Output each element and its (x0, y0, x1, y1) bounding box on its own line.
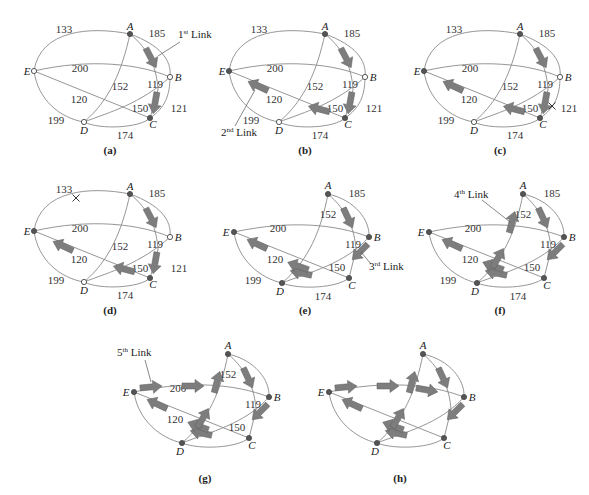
panel-h: ABCDE(h) (317, 339, 476, 485)
node-label-b: B (469, 391, 476, 403)
edge-weight-120: 120 (71, 93, 88, 105)
edge-weight-121: 121 (561, 102, 578, 114)
node-label-e: E (23, 225, 31, 237)
link-arrow-icon (247, 237, 268, 251)
edge-weight-119: 119 (537, 78, 554, 90)
edge-AC-119 (423, 354, 451, 438)
edge-EB-200 (34, 64, 170, 77)
edge-weight-200: 200 (267, 62, 284, 74)
panel-caption-b: (b) (298, 144, 312, 157)
link-arrow-icon (436, 367, 450, 388)
edge-DC-174 (84, 118, 150, 127)
node-label-a: A (419, 339, 427, 351)
node-label-d: D (79, 124, 88, 136)
node-b (167, 234, 172, 239)
edge-weight-119: 119 (345, 238, 362, 250)
edge-ED-199 (329, 392, 377, 443)
node-label-c: C (149, 278, 157, 290)
edge-weight-120: 120 (267, 253, 284, 265)
node-e (421, 68, 426, 73)
edge-weight-121: 121 (171, 262, 188, 274)
edge-weight-120: 120 (266, 93, 283, 105)
edge-weight-200: 200 (462, 62, 479, 74)
link-arrow-icon (335, 380, 357, 393)
edge-weight-185: 185 (539, 27, 556, 39)
node-label-e: E (218, 65, 226, 77)
edge-weight-199: 199 (48, 274, 65, 286)
edge-EB-200 (429, 225, 564, 237)
link-arrow-icon (143, 207, 158, 228)
node-label-e: E (222, 226, 230, 238)
edge-weight-174: 174 (510, 290, 527, 302)
node-label-c: C (543, 279, 551, 291)
node-label-d: D (79, 284, 88, 296)
edge-weight-119: 119 (342, 78, 359, 90)
edge-weight-120: 120 (461, 93, 478, 105)
node-e (131, 389, 136, 394)
edge-EB-200 (34, 224, 170, 237)
edge-weight-185: 185 (344, 27, 361, 39)
edge-weight-152: 152 (112, 80, 129, 92)
panel-caption-h: (h) (393, 472, 407, 485)
node-label-d: D (275, 285, 284, 297)
edge-weight-152: 152 (307, 80, 324, 92)
link-arrow-icon (533, 47, 548, 68)
link-arrow-icon (342, 397, 363, 411)
node-label-e: E (23, 65, 31, 77)
node-e (226, 68, 231, 73)
edge-weight-120: 120 (71, 253, 88, 265)
edge-weight-152: 152 (112, 240, 129, 252)
node-label-b: B (175, 231, 182, 243)
node-label-c: C (443, 439, 451, 451)
edge-weight-119: 119 (147, 238, 164, 250)
node-b (461, 394, 466, 399)
node-label-b: B (274, 391, 281, 403)
node-e (426, 229, 431, 234)
node-label-b: B (565, 71, 572, 83)
panel-a: 133185200152119120150121199174ABCDE(a)1s… (23, 20, 213, 157)
panel-caption-e: (e) (299, 304, 312, 317)
node-label-d: D (370, 445, 379, 457)
edge-weight-174: 174 (315, 290, 332, 302)
edge-weight-174: 174 (117, 289, 134, 301)
edge-weight-119: 119 (147, 78, 164, 90)
node-label-c: C (344, 118, 352, 130)
node-label-e: E (417, 226, 425, 238)
node-b (362, 74, 367, 79)
link-arrow-icon (536, 207, 550, 228)
edge-EB-200 (424, 64, 560, 77)
node-label-a: A (516, 20, 524, 32)
node-a (420, 351, 425, 356)
link-callout-label: 4th Link (454, 188, 489, 200)
link-callout-label: 2nd Link (221, 126, 258, 138)
edge-weight-150: 150 (132, 102, 149, 114)
node-a (127, 191, 132, 196)
node-label-b: B (569, 231, 576, 243)
node-label-a: A (224, 339, 232, 351)
link-arrow-icon (338, 47, 353, 68)
edge-weight-185: 185 (349, 187, 366, 199)
panel-caption-f: (f) (495, 304, 506, 317)
node-label-c: C (248, 439, 256, 451)
panel-caption-d: (d) (103, 304, 117, 317)
callout-leader-line (158, 42, 180, 56)
link-callout-label: 3rd Link (369, 260, 404, 272)
link-arrow-icon (148, 252, 161, 274)
edge-weight-121: 121 (171, 102, 188, 114)
edge-weight-133: 133 (446, 23, 463, 35)
edge-weight-200: 200 (72, 222, 89, 234)
link-arrow-icon (377, 380, 399, 393)
edge-weight-199: 199 (438, 114, 455, 126)
edge-weight-120: 120 (462, 253, 479, 265)
edge-EB-200 (234, 225, 369, 237)
edge-weight-152: 152 (320, 208, 337, 220)
node-label-e: E (413, 65, 421, 77)
link-arrow-icon (248, 79, 269, 93)
node-label-a: A (321, 20, 329, 32)
node-e (231, 229, 236, 234)
panel-b: 133185200152119120150121199174ABCDE(b)2n… (218, 20, 383, 157)
edge-weight-174: 174 (312, 129, 329, 141)
node-e (31, 68, 36, 73)
edge-weight-199: 199 (440, 274, 457, 286)
link-arrow-icon (416, 384, 438, 397)
